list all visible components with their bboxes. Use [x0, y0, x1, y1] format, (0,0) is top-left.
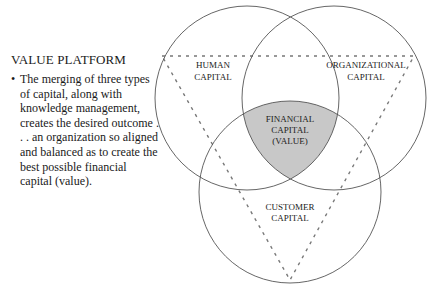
financial-label-3: (VALUE): [272, 136, 307, 146]
customer-label-2: CAPITAL: [271, 213, 308, 223]
venn-diagram: HUMAN CAPITAL ORGANIZATIONAL CAPITAL FIN…: [0, 0, 446, 285]
human-label-2: CAPITAL: [194, 72, 231, 82]
organizational-label-1: ORGANIZATIONAL: [326, 60, 406, 70]
financial-label-1: FINANCIAL: [266, 114, 315, 124]
customer-label-1: CUSTOMER: [266, 202, 315, 212]
organizational-label-2: CAPITAL: [347, 72, 384, 82]
financial-label-2: CAPITAL: [271, 125, 308, 135]
human-label-1: HUMAN: [196, 60, 231, 70]
